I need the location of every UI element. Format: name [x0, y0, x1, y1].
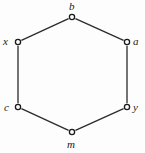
vertex-layer — [15, 14, 129, 134]
hexagon-graph-figure: baymcx — [0, 0, 145, 153]
vertex-label-y: y — [133, 102, 138, 113]
vertex-label-m: m — [67, 139, 75, 150]
vertex-label-x: x — [3, 36, 8, 47]
graph-edge-x-b — [21, 19, 68, 41]
edge-layer — [18, 19, 127, 131]
graph-vertex-a — [124, 39, 129, 44]
graph-vertex-m — [69, 129, 74, 134]
graph-canvas — [0, 0, 145, 153]
graph-vertex-x — [15, 39, 20, 44]
graph-vertex-c — [15, 104, 20, 109]
vertex-label-a: a — [133, 36, 139, 47]
graph-vertex-b — [69, 14, 74, 19]
vertex-label-c: c — [4, 102, 9, 113]
graph-edge-y-m — [75, 109, 123, 131]
graph-edge-b-a — [75, 19, 123, 41]
graph-edge-m-c — [21, 109, 68, 131]
graph-vertex-y — [124, 104, 129, 109]
vertex-label-b: b — [69, 1, 75, 12]
